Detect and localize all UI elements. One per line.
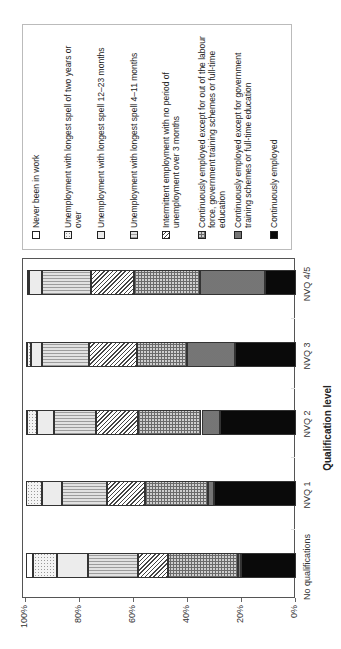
bar-segment xyxy=(265,271,296,296)
bar-segment xyxy=(62,482,107,507)
category-separator xyxy=(291,388,295,389)
bar-segment xyxy=(238,554,241,579)
bar-segment xyxy=(42,482,62,507)
legend-label: Unemployment with longest spell of two y… xyxy=(63,33,83,228)
category-label: NVQ 1 xyxy=(302,455,312,535)
y-tick-label: 80% xyxy=(73,605,83,639)
stacked-bar xyxy=(23,554,296,579)
y-tick-label: 100% xyxy=(19,605,29,639)
bar-segment xyxy=(235,343,296,368)
bar-segment xyxy=(88,554,138,579)
bar-segment xyxy=(26,554,33,579)
category-separator xyxy=(291,318,295,319)
bar-segment xyxy=(57,554,88,579)
legend: Never been in workUnemployment with long… xyxy=(22,24,292,250)
y-tick-label: 0% xyxy=(289,605,299,639)
x-axis-title: Qualification level xyxy=(322,328,333,528)
y-tick-label: 40% xyxy=(181,605,191,639)
bar-segment xyxy=(220,411,296,436)
bar-segment xyxy=(137,343,187,368)
bar-segment xyxy=(42,271,91,296)
bar-segment xyxy=(214,482,296,507)
bar-segment xyxy=(37,411,55,436)
bar-segment xyxy=(42,343,89,368)
legend-label: Continuously employed xyxy=(269,140,279,228)
legend-item: Unemployment with longest spell 4–11 mon… xyxy=(129,33,139,239)
category-label: NVQ 4/5 xyxy=(302,244,312,324)
bar-segment xyxy=(187,343,236,368)
y-tick-label: 60% xyxy=(127,605,137,639)
legend-label: Unemployment with longest spell 12–23 mo… xyxy=(96,48,106,229)
legend-label: Continuously employed except for governm… xyxy=(233,33,253,228)
legend-swatch-icon xyxy=(270,231,278,239)
category-label: No qualifications xyxy=(302,527,312,607)
bar-segment xyxy=(31,343,42,368)
legend-label: Unemployment with longest spell 4–11 mon… xyxy=(129,53,139,228)
category-separator xyxy=(291,457,295,458)
bar-segment xyxy=(26,343,28,368)
stacked-bar xyxy=(23,482,296,507)
bar-segment xyxy=(138,411,201,436)
bar-segment xyxy=(96,411,138,436)
category-label: NVQ 3 xyxy=(302,316,312,396)
legend-swatch-icon xyxy=(198,231,206,239)
y-tick-label: 20% xyxy=(235,605,245,639)
legend-item: Continuously employed except for out of … xyxy=(197,33,227,239)
bar-segment xyxy=(241,554,296,579)
stacked-bar xyxy=(23,411,296,436)
legend-swatch-icon xyxy=(64,231,72,239)
bar-segment xyxy=(29,271,43,296)
legend-swatch-icon xyxy=(162,231,170,239)
y-tick-mark xyxy=(25,598,26,602)
bar-segment xyxy=(33,554,57,579)
legend-item: Unemployment with longest spell 12–23 mo… xyxy=(96,33,106,239)
category-separator xyxy=(291,529,295,530)
stacked-bar xyxy=(23,271,296,296)
bar-segment xyxy=(138,554,168,579)
plot-area xyxy=(22,258,295,598)
bar-segment xyxy=(89,343,136,368)
category-label: NVQ 2 xyxy=(302,384,312,464)
bar-segment xyxy=(27,271,29,296)
bar-segment xyxy=(208,482,213,507)
y-tick-mark xyxy=(187,598,188,602)
legend-label: Continuously employed except for out of … xyxy=(197,33,227,228)
bar-segment xyxy=(145,482,208,507)
y-tick-mark xyxy=(241,598,242,602)
chart-stage: 100%80%60%40%20%0% No qualificationsNVQ … xyxy=(0,0,341,649)
legend-swatch-icon xyxy=(234,231,242,239)
legend-label: Never been in work xyxy=(31,155,41,228)
bar-segment xyxy=(134,271,200,296)
bar-segment xyxy=(26,482,42,507)
bar-segment xyxy=(26,411,28,436)
legend-item: Unemployment with longest spell of two y… xyxy=(63,33,83,239)
stacked-bar xyxy=(23,343,296,368)
legend-swatch-icon xyxy=(32,231,40,239)
legend-swatch-icon xyxy=(97,231,105,239)
bar-segment xyxy=(202,411,221,436)
bar-segment xyxy=(54,411,96,436)
legend-item: Intermittent employment with no period o… xyxy=(161,33,181,239)
bar-segment xyxy=(107,482,145,507)
bar-segment xyxy=(91,271,134,296)
legend-label: Intermittent employment with no period o… xyxy=(161,33,181,228)
legend-swatch-icon xyxy=(130,231,138,239)
y-tick-mark xyxy=(133,598,134,602)
legend-item: Continuously employed except for governm… xyxy=(233,33,253,239)
legend-item: Continuously employed xyxy=(269,33,279,239)
bar-segment xyxy=(27,411,36,436)
bar-segment xyxy=(200,271,265,296)
bar-segment xyxy=(168,554,238,579)
legend-item: Never been in work xyxy=(31,33,41,239)
y-tick-mark xyxy=(79,598,80,602)
y-tick-mark xyxy=(295,598,296,602)
